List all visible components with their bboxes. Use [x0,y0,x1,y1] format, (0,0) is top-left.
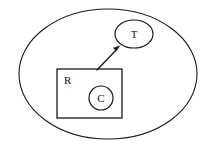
region-to-target-arrow [97,46,121,71]
region-label: R [64,74,72,86]
core-label: C [97,92,104,104]
outer-boundary-ellipse [19,9,197,139]
diagram-canvas: R C T [0,0,212,147]
diagram-svg: R C T [0,0,212,147]
arrow-head-icon [113,46,121,52]
target-label: T [131,28,138,40]
arrow-shaft [97,49,118,71]
